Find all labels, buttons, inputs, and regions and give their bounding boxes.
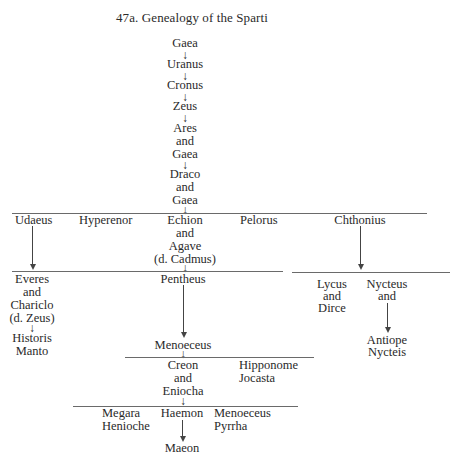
arrow-line-pentheus bbox=[183, 285, 184, 334]
arrow-head-icon bbox=[358, 264, 364, 270]
node-antiope-nycteis: Nycteis bbox=[368, 346, 406, 359]
node-haemon: Haemon bbox=[161, 407, 203, 420]
node-nycteus-and: and bbox=[378, 290, 396, 303]
generation-line-2-left bbox=[12, 271, 283, 272]
figure-number: 47a. bbox=[116, 10, 138, 25]
node-dirce: Dirce bbox=[318, 302, 346, 315]
node-udaeus: Udaeus bbox=[15, 214, 53, 227]
arrow-line-udaeus bbox=[32, 226, 33, 266]
node-pelorus: Pelorus bbox=[240, 214, 278, 227]
generation-line-2-right bbox=[292, 272, 450, 273]
node-pyrrha: Pyrrha bbox=[214, 420, 247, 433]
node-maeon: Maeon bbox=[165, 442, 200, 455]
figure-title-text: Genealogy of the Sparti bbox=[142, 10, 268, 25]
node-jocasta: Jocasta bbox=[239, 372, 275, 385]
node-henioche: Henioche bbox=[102, 420, 150, 433]
arrow-line-nycteus bbox=[387, 303, 388, 329]
node-hyperenor: Hyperenor bbox=[79, 214, 132, 227]
figure-title: 47a. Genealogy of the Sparti bbox=[116, 10, 268, 26]
node-manto: Manto bbox=[16, 345, 49, 358]
arrow-line-chthonius bbox=[360, 226, 361, 266]
arrow-head-icon bbox=[30, 264, 36, 270]
